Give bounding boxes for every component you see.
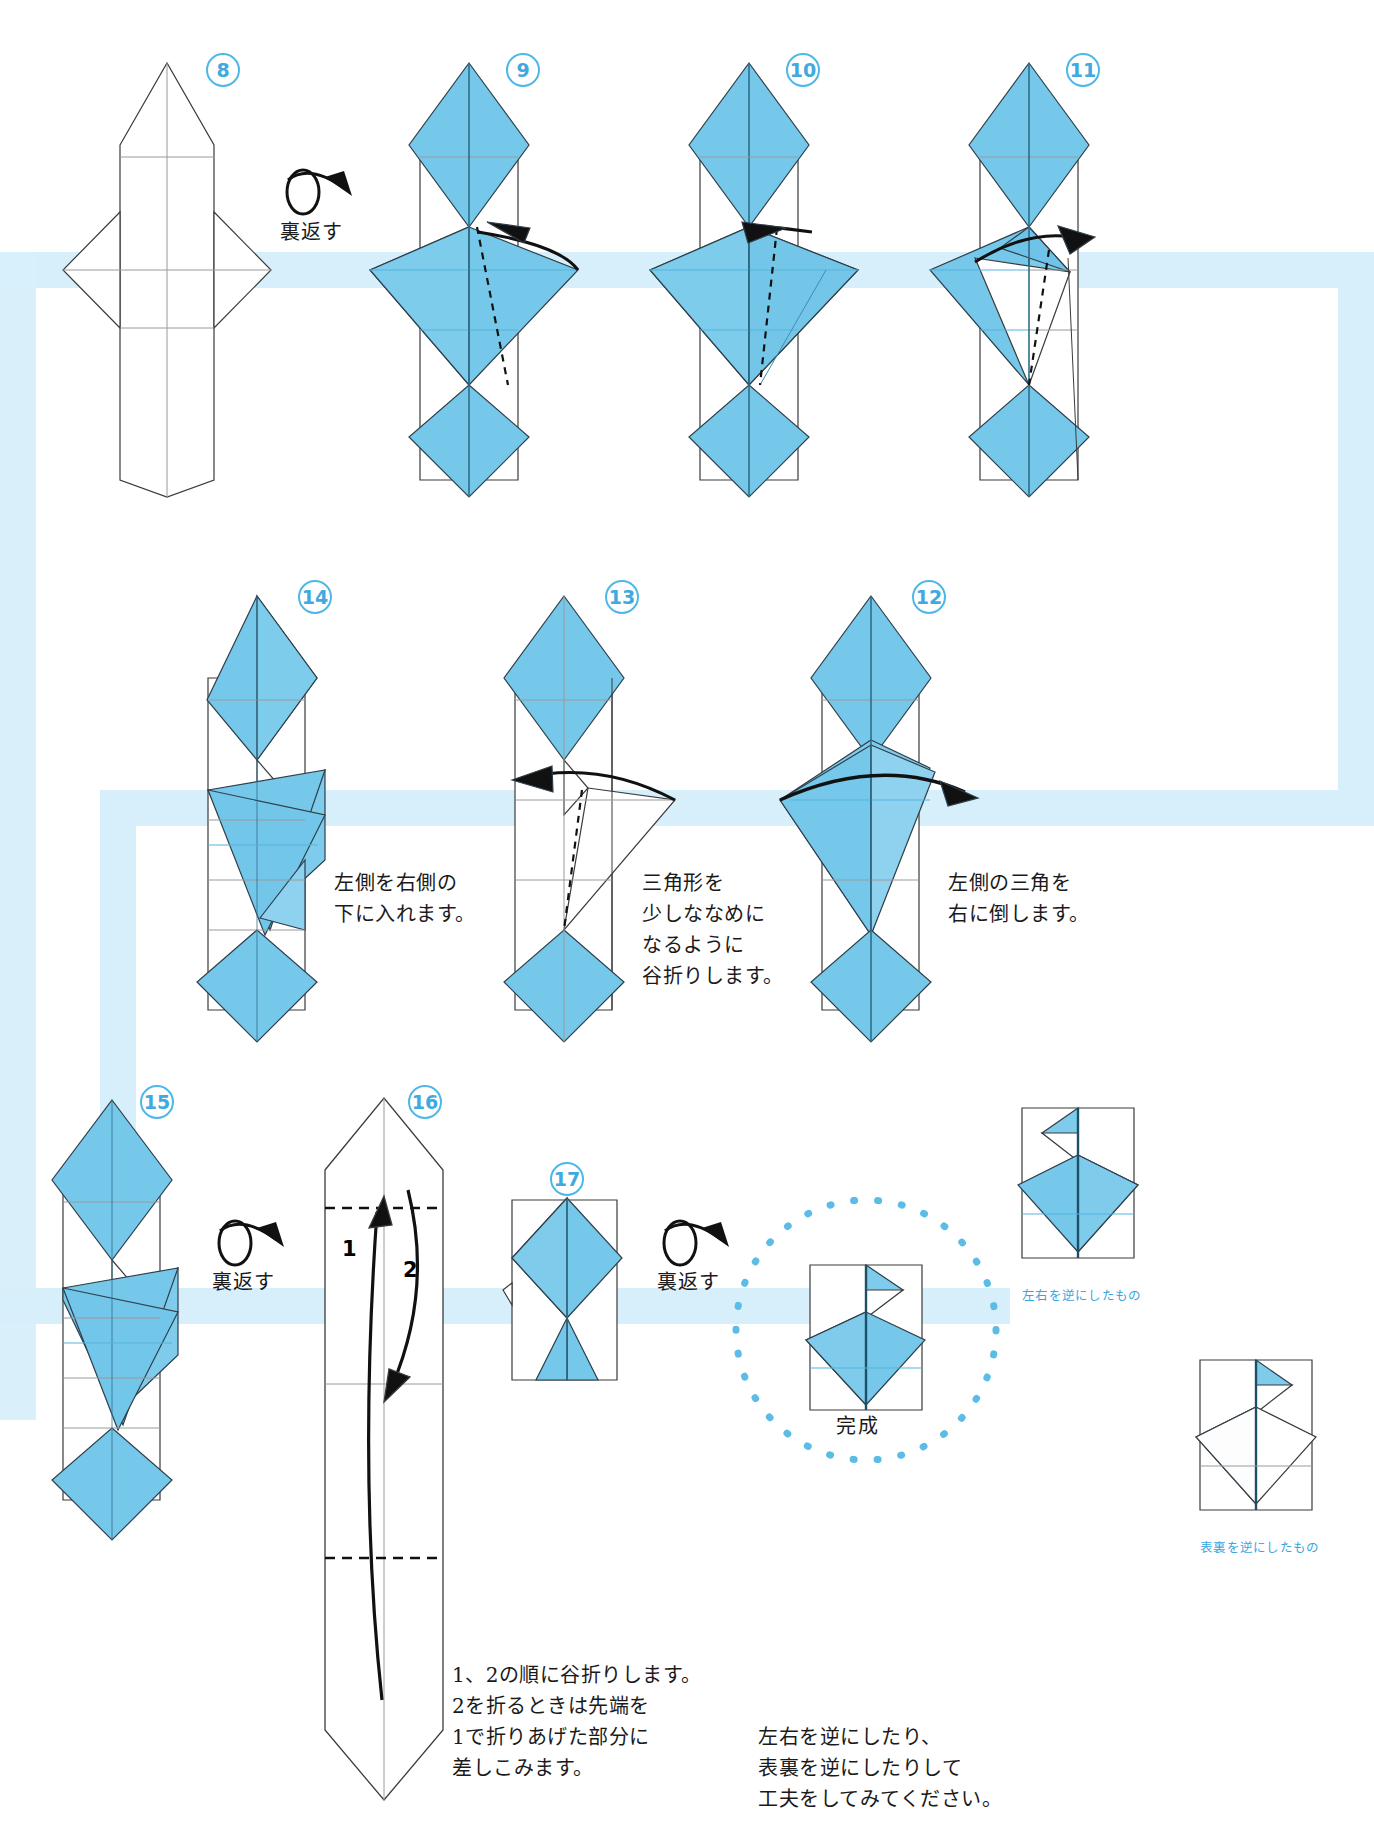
- caption-step-16: 1、2の順に谷折りします。 2を折るときは先端を 1で折りあげた部分に 差しこみ…: [452, 1660, 702, 1784]
- figure-variant-mirror: [1018, 1108, 1138, 1258]
- origami-instruction-page: 8 9 10 11 14 13 12 15 16 17 裏返す 裏返す 裏返す …: [0, 0, 1374, 1835]
- caption-step-14: 左側を右側の 下に入れます。: [334, 868, 476, 930]
- figure-step-15: [52, 1100, 178, 1540]
- caption-step-12: 左側の三角を 右に倒します。: [948, 868, 1090, 930]
- turn-over-label-3: 裏返す: [657, 1266, 720, 1295]
- figure-step-16: [325, 1098, 443, 1800]
- step-number-11: 11: [1066, 53, 1100, 87]
- step-number-13: 13: [605, 580, 639, 614]
- step-number-8: 8: [206, 53, 240, 87]
- completed-label: 完成: [836, 1410, 880, 1439]
- variant-label-reverse: 表裏を逆にしたもの: [1200, 1537, 1320, 1556]
- step-number-10: 10: [786, 53, 820, 87]
- step-number-14: 14: [298, 580, 332, 614]
- turn-over-label-2: 裏返す: [212, 1266, 275, 1295]
- figure-completed: [806, 1265, 925, 1410]
- turn-over-label-1: 裏返す: [280, 216, 343, 245]
- caption-step-13: 三角形を 少しななめに なるように 谷折りします。: [642, 868, 784, 992]
- fold-order-label-1: 1: [342, 1237, 357, 1261]
- caption-final: 左右を逆にしたり、 表裏を逆にしたりして 工夫をしてみてください。: [758, 1722, 1002, 1815]
- step-number-16: 16: [408, 1085, 442, 1119]
- fold-order-label-2: 2: [403, 1258, 418, 1282]
- step-number-17: 17: [550, 1162, 584, 1196]
- step-number-15: 15: [140, 1085, 174, 1119]
- variant-label-mirror: 左右を逆にしたもの: [1022, 1285, 1142, 1304]
- step-number-12: 12: [912, 580, 946, 614]
- figure-step-17: [503, 1198, 622, 1380]
- step-number-9: 9: [506, 53, 540, 87]
- figure-variant-reverse: [1196, 1360, 1316, 1510]
